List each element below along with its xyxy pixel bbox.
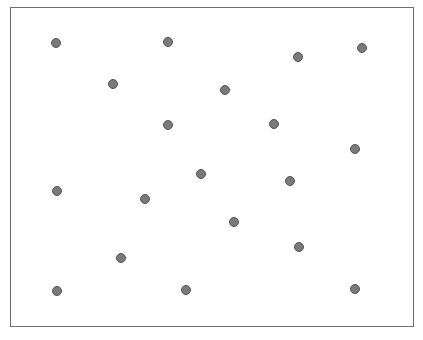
- dot: [220, 85, 230, 95]
- dot: [108, 79, 118, 89]
- dot: [357, 43, 367, 53]
- dot: [140, 194, 150, 204]
- dot: [269, 119, 279, 129]
- dot: [293, 52, 303, 62]
- dot: [51, 38, 61, 48]
- dot: [181, 285, 191, 295]
- dot: [163, 120, 173, 130]
- dot: [350, 144, 360, 154]
- dot: [52, 186, 62, 196]
- dot: [229, 217, 239, 227]
- dot: [350, 284, 360, 294]
- dot: [52, 286, 62, 296]
- dot: [285, 176, 295, 186]
- dot: [196, 169, 206, 179]
- dot: [163, 37, 173, 47]
- dot-field-frame: [10, 7, 414, 327]
- dot: [116, 253, 126, 263]
- dot: [294, 242, 304, 252]
